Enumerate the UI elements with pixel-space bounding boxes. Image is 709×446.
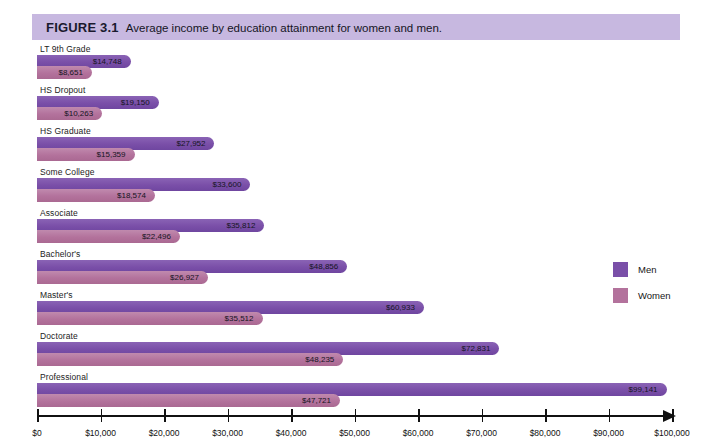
chart-row: Some College$33,600$18,574 (0, 167, 709, 208)
axis-tick (609, 409, 611, 422)
legend-label-women: Women (638, 290, 671, 301)
category-label: Associate (40, 208, 78, 218)
bar-value-men: $14,748 (93, 58, 131, 66)
bar-value-women: $22,496 (142, 233, 180, 241)
chart-row: Doctorate$72,831$48,235 (0, 331, 709, 372)
axis-tick-label: $80,000 (530, 428, 561, 438)
axis-arrow-icon (663, 410, 676, 422)
axis-tick-label: $20,000 (149, 428, 180, 438)
bar-women: $8,651 (37, 66, 92, 79)
chart-row: HS Dropout$19,150$10,263 (0, 85, 709, 126)
bar-value-men: $19,150 (121, 99, 159, 107)
axis-tick (37, 409, 39, 422)
category-label: Some College (40, 167, 95, 177)
axis-tick (101, 409, 103, 422)
category-label: HS Dropout (40, 85, 85, 95)
bar-value-men: $99,141 (629, 386, 667, 394)
chart-legend: Men Women (613, 262, 671, 314)
axis-tick-label: $0 (32, 428, 41, 438)
axis-tick-label: $50,000 (339, 428, 370, 438)
category-label: HS Graduate (40, 126, 91, 136)
bar-value-men: $48,856 (309, 263, 347, 271)
category-label: Doctorate (40, 331, 78, 341)
legend-label-men: Men (638, 264, 656, 275)
axis-tick-label: $70,000 (466, 428, 497, 438)
legend-swatch-men (613, 262, 628, 277)
bar-value-men: $60,933 (386, 304, 424, 312)
figure-title: Average income by education attainment f… (126, 22, 442, 34)
chart-row: Bachelor's$48,856$26,927 (0, 249, 709, 290)
bar-value-women: $10,263 (64, 110, 102, 118)
bar-value-women: $48,235 (305, 356, 343, 364)
axis-tick (482, 409, 484, 422)
bar-group: $33,600$18,574 (0, 178, 709, 204)
bar-women: $48,235 (37, 353, 343, 366)
bar-women: $26,927 (37, 271, 208, 284)
bar-value-men: $33,600 (212, 181, 250, 189)
axis-tick-label: $40,000 (276, 428, 307, 438)
axis-tick (291, 409, 293, 422)
bar-group: $72,831$48,235 (0, 342, 709, 368)
bar-women: $15,359 (37, 148, 135, 161)
axis-tick-label: $10,000 (85, 428, 116, 438)
axis-tick (418, 409, 420, 422)
bar-value-women: $35,512 (225, 315, 263, 323)
axis-tick (228, 409, 230, 422)
chart-plot-area: LT 9th Grade$14,748$8,651HS Dropout$19,1… (0, 44, 709, 400)
chart-row: Master's$60,933$35,512 (0, 290, 709, 331)
bar-value-women: $8,651 (58, 69, 91, 77)
bar-group: $27,952$15,359 (0, 137, 709, 163)
figure-number: FIGURE 3.1 (46, 20, 119, 35)
axis-tick (355, 409, 357, 422)
bar-women: $22,496 (37, 230, 180, 243)
legend-item-women: Women (613, 288, 671, 303)
axis-tick-label: $90,000 (593, 428, 624, 438)
category-label: Master's (40, 290, 73, 300)
axis-tick (672, 409, 674, 422)
category-label: LT 9th Grade (40, 44, 91, 54)
bar-value-men: $27,952 (177, 140, 215, 148)
axis-tick (164, 409, 166, 422)
legend-swatch-women (613, 288, 628, 303)
x-axis: $0$10,000$20,000$30,000$40,000$50,000$60… (0, 404, 709, 446)
axis-tick (545, 409, 547, 422)
bar-value-men: $72,831 (462, 345, 500, 353)
chart-row: LT 9th Grade$14,748$8,651 (0, 44, 709, 85)
legend-item-men: Men (613, 262, 671, 277)
bar-women: $18,574 (37, 189, 155, 202)
bar-group: $14,748$8,651 (0, 55, 709, 81)
bar-women: $10,263 (37, 107, 102, 120)
category-label: Professional (40, 372, 88, 382)
axis-tick-label: $60,000 (403, 428, 434, 438)
chart-row: Associate$35,812$22,496 (0, 208, 709, 249)
axis-tick-label: $100,000 (654, 428, 689, 438)
bar-group: $19,150$10,263 (0, 96, 709, 122)
bar-group: $35,812$22,496 (0, 219, 709, 245)
axis-tick-label: $30,000 (212, 428, 243, 438)
bar-value-women: $18,574 (117, 192, 155, 200)
category-label: Bachelor's (40, 249, 80, 259)
chart-row: HS Graduate$27,952$15,359 (0, 126, 709, 167)
figure-caption-banner: FIGURE 3.1 Average income by education a… (32, 14, 680, 40)
bar-value-men: $35,812 (226, 222, 264, 230)
bar-value-women: $26,927 (170, 274, 208, 282)
bar-group: $48,856$26,927 (0, 260, 709, 286)
bar-women: $35,512 (37, 312, 263, 325)
bar-value-women: $15,359 (97, 151, 135, 159)
bar-group: $60,933$35,512 (0, 301, 709, 327)
figure-container: FIGURE 3.1 Average income by education a… (0, 0, 709, 446)
